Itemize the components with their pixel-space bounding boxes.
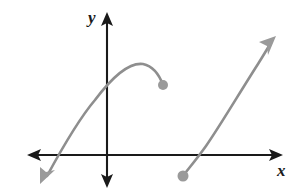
- right-curve-group: [178, 36, 277, 182]
- right-curve-endpoint-dot: [178, 171, 189, 182]
- right-curve-path: [183, 46, 269, 176]
- y-axis-label: y: [86, 8, 96, 27]
- right-curve-arrowhead: [259, 36, 276, 55]
- x-axis-label: x: [276, 161, 286, 180]
- graph-figure: y x: [0, 0, 294, 196]
- y-axis: [101, 12, 113, 188]
- coordinate-plane-svg: y x: [0, 0, 294, 196]
- left-curve-group: [40, 64, 168, 184]
- x-axis: [27, 149, 283, 161]
- left-curve-endpoint-dot: [158, 80, 168, 90]
- left-curve-path: [47, 64, 163, 176]
- left-curve-arrowhead: [40, 167, 55, 184]
